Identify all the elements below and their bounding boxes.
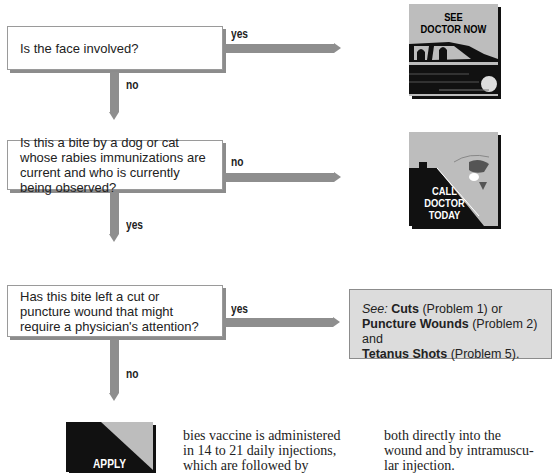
body-line: both directly into the [384, 428, 534, 443]
yes-label: yes [231, 302, 248, 316]
car-icon [409, 4, 498, 96]
outcome-line: TODAY [409, 210, 490, 221]
body-column-1: bies vaccine is administered in 14 to 21… [183, 428, 340, 473]
see-doctor-now-illustration: SEE DOCTOR NOW [409, 4, 498, 96]
outcome-line: CALL [409, 186, 490, 197]
arrow-head-icon [109, 234, 119, 242]
reference-cuts-link[interactable]: Cuts [391, 302, 419, 316]
reference-puncture-wounds-link[interactable]: Puncture Wounds [362, 317, 469, 331]
body-line: lar injection. [384, 458, 534, 473]
body-line: in 14 to 21 daily injections, [183, 443, 340, 458]
body-line: which are followed by [183, 458, 340, 473]
body-line: wound and by intramuscu- [384, 443, 534, 458]
reference-text: (Problem 5). [447, 347, 519, 361]
no-arrow-shaft [110, 339, 119, 393]
arrow-head-icon [333, 317, 340, 327]
call-doctor-today-illustration: CALL DOCTOR TODAY [409, 132, 498, 226]
question-text: Has this bite left a cut or puncture wou… [20, 289, 210, 334]
body-column-2: both directly into the wound and by intr… [384, 428, 534, 473]
no-label: no [126, 367, 138, 381]
see-references-box: See: Cuts (Problem 1) or Puncture Wounds… [349, 289, 552, 359]
reference-tetanus-shots-link[interactable]: Tetanus Shots [362, 347, 447, 361]
no-arrow-shaft [110, 72, 119, 112]
arrow-head-icon [334, 172, 341, 182]
yes-label: yes [231, 27, 248, 41]
outcome-line: DOCTOR [409, 198, 490, 209]
yes-label: yes [126, 218, 143, 232]
question-cut-or-puncture: Has this bite left a cut or puncture wou… [7, 285, 223, 337]
question-face-involved: Is the face involved? [7, 26, 223, 70]
no-label: no [126, 78, 138, 92]
reference-text: (Problem 1) or [419, 302, 502, 316]
arrow-head-icon [109, 393, 119, 401]
question-text: Is the face involved? [20, 41, 139, 56]
yes-arrow-shaft [223, 44, 334, 53]
see-label: See: [362, 302, 388, 316]
arrow-head-icon [334, 43, 341, 53]
body-line: bies vaccine is administered [183, 428, 340, 443]
outcome-line: APPLY [73, 459, 147, 470]
yes-arrow-shaft [223, 318, 333, 327]
yes-arrow-shaft [110, 192, 119, 234]
apply-illustration: APPLY [66, 422, 153, 472]
no-label: no [231, 155, 243, 169]
question-text: Is this a bite by a dog or cat whose rab… [20, 135, 210, 195]
question-rabies-current: Is this a bite by a dog or cat whose rab… [7, 140, 223, 190]
no-arrow-shaft [223, 173, 334, 182]
arrow-head-icon [109, 112, 119, 120]
